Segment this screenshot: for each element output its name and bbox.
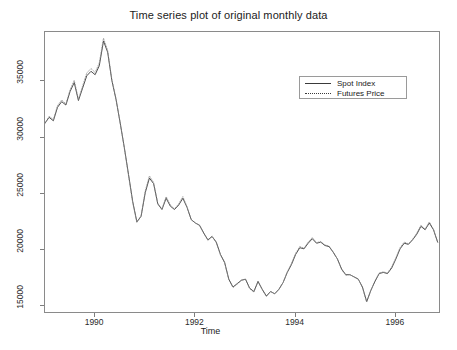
plot-area (44, 31, 440, 313)
y-tick-label: 25000 (15, 173, 25, 213)
chart-figure: Time series plot of original monthly dat… (0, 0, 457, 350)
y-tick-label: 15000 (15, 285, 25, 325)
legend-label: Futures Price (337, 89, 385, 98)
chart-title: Time series plot of original monthly dat… (0, 9, 457, 21)
legend-label: Spot Index (337, 79, 375, 88)
legend-swatch-dotted-line-icon (305, 89, 331, 97)
legend-item-futures-price: Futures Price (300, 88, 408, 98)
x-axis-label: Time (0, 326, 457, 336)
x-axis-label-text: Time (201, 326, 221, 336)
y-tick-label: 30000 (15, 117, 25, 157)
legend-swatch-solid-line-icon (305, 79, 331, 87)
series-canvas (45, 32, 441, 314)
y-tick-label: 35000 (15, 60, 25, 100)
chart-legend: Spot Index Futures Price (299, 76, 407, 99)
y-tick-label: 20000 (15, 229, 25, 269)
legend-item-spot-index: Spot Index (300, 78, 408, 88)
